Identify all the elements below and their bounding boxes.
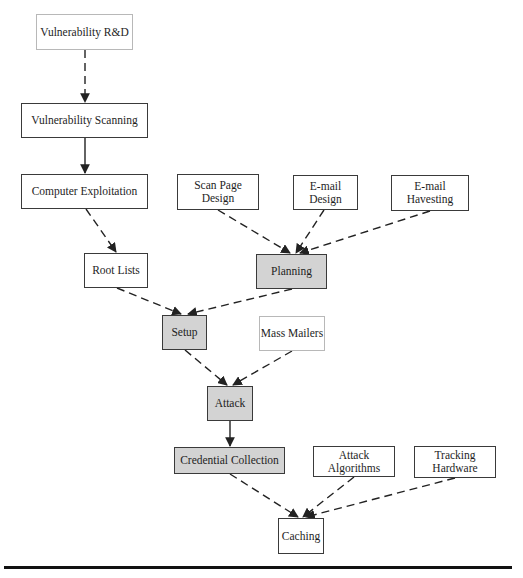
edge-setup-to-attack — [185, 350, 227, 385]
node-label: Attack — [215, 397, 246, 410]
node-attack-algorithms: Attack Algorithms — [313, 446, 395, 477]
node-scan-page-design: Scan Page Design — [177, 174, 259, 210]
node-label-line2: Algorithms — [328, 462, 380, 475]
node-vulnerability-scanning: Vulnerability Scanning — [21, 103, 148, 138]
flowchart-canvas: Vulnerability R&D Vulnerability Scanning… — [0, 0, 523, 578]
node-root-lists: Root Lists — [84, 253, 148, 288]
node-label: Computer Exploitation — [32, 185, 138, 198]
node-label: E-mail Design — [294, 180, 357, 206]
node-credential-collection: Credential Collection — [174, 447, 285, 474]
edge-credentials-to-caching — [230, 474, 298, 517]
node-vulnerability-rd: Vulnerability R&D — [36, 14, 133, 50]
node-setup: Setup — [162, 315, 207, 350]
node-label-line1: Attack — [339, 449, 370, 462]
node-caching: Caching — [278, 518, 324, 554]
node-mass-mailers: Mass Mailers — [259, 316, 325, 351]
node-label: Planning — [271, 265, 312, 278]
node-label: Mass Mailers — [261, 327, 323, 340]
edge-scanpage-to-planning — [218, 210, 290, 253]
edge-rootlists-to-setup — [117, 288, 181, 314]
edges-layer — [0, 0, 523, 578]
node-label: E-mail Havesting — [392, 180, 468, 206]
node-label-line2: Hardware — [432, 462, 477, 475]
edge-emailharvest-to-planning — [300, 211, 430, 253]
node-email-design: E-mail Design — [293, 175, 358, 210]
edge-massmailers-to-attack — [233, 351, 292, 385]
node-label: Setup — [171, 326, 197, 339]
node-email-havesting: E-mail Havesting — [391, 175, 469, 211]
bottom-rule-divider — [4, 566, 512, 569]
edge-exploitation-to-rootlists — [86, 209, 116, 252]
node-label: Scan Page Design — [178, 179, 258, 205]
node-label-line1: Tracking — [434, 449, 475, 462]
node-label: Vulnerability Scanning — [31, 114, 137, 127]
node-label: Root Lists — [92, 264, 140, 277]
node-computer-exploitation: Computer Exploitation — [21, 174, 148, 209]
node-tracking-hardware: Tracking Hardware — [414, 446, 496, 478]
edge-planning-to-setup — [188, 289, 292, 314]
node-attack: Attack — [207, 386, 253, 421]
node-label: Credential Collection — [180, 454, 279, 467]
node-planning: Planning — [256, 254, 327, 289]
node-label: Caching — [282, 530, 320, 543]
edge-emaildesign-to-planning — [296, 210, 324, 253]
node-label: Vulnerability R&D — [40, 26, 128, 39]
